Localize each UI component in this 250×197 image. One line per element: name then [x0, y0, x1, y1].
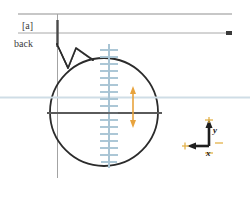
axis-indicator: [182, 117, 223, 153]
axis-origin-ticks: [182, 117, 223, 153]
dimension-arrow-head-down: [130, 120, 136, 128]
axis-x-label: x: [206, 148, 211, 158]
axis-y-label: y: [213, 125, 217, 135]
technical-drawing: [0, 0, 250, 197]
dimension-arrow-orange: [130, 86, 136, 128]
rule-end-marker: [226, 31, 232, 35]
tick-scale-axis: [100, 44, 118, 168]
dimension-arrow-head-up: [130, 86, 136, 94]
bracket-label: [a]: [22, 20, 33, 31]
view-label: back: [14, 38, 33, 49]
diagram-canvas: [a] back x y: [0, 0, 250, 197]
